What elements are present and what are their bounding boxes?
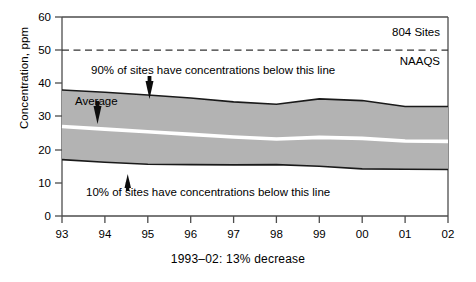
y-tick-label: 60 xyxy=(38,11,51,23)
y-tick-label: 50 xyxy=(38,44,51,56)
figure-caption: 1993–02: 13% decrease xyxy=(0,252,476,266)
y-tick-label: 20 xyxy=(38,144,51,156)
x-tick-label: 99 xyxy=(313,228,326,240)
x-tick-label: 97 xyxy=(227,228,240,240)
x-tick-label: 93 xyxy=(56,228,69,240)
average-label: Average xyxy=(75,95,118,107)
p10-note-label: 10% of sites have concentrations below t… xyxy=(86,186,330,198)
x-axis-ticks xyxy=(62,216,448,223)
x-tick-label: 95 xyxy=(141,228,154,240)
naaqs-label: NAAQS xyxy=(400,55,441,67)
x-tick-label: 00 xyxy=(356,228,369,240)
y-tick-label: 0 xyxy=(45,210,51,222)
y-tick-label: 40 xyxy=(38,77,51,89)
y-tick-labels: 60 50 40 30 20 10 0 xyxy=(38,11,51,222)
x-tick-label: 02 xyxy=(442,228,455,240)
x-tick-label: 94 xyxy=(99,228,112,240)
x-tick-label: 01 xyxy=(399,228,412,240)
x-tick-labels: 93 94 95 96 97 98 99 00 01 02 xyxy=(56,228,455,240)
p90-note-label: 90% of sites have concentrations below t… xyxy=(91,64,335,76)
sites-count-label: 804 Sites xyxy=(392,26,440,38)
air-quality-percentile-chart: 60 50 40 30 20 10 0 93 94 95 96 97 xyxy=(0,0,476,282)
chart-figure: Concentration, ppm 60 50 40 30 20 10 0 xyxy=(0,0,476,282)
y-tick-label: 10 xyxy=(38,177,51,189)
x-tick-label: 96 xyxy=(184,228,197,240)
x-tick-label: 98 xyxy=(270,228,283,240)
y-axis-ticks xyxy=(55,17,62,216)
y-tick-label: 30 xyxy=(38,110,51,122)
